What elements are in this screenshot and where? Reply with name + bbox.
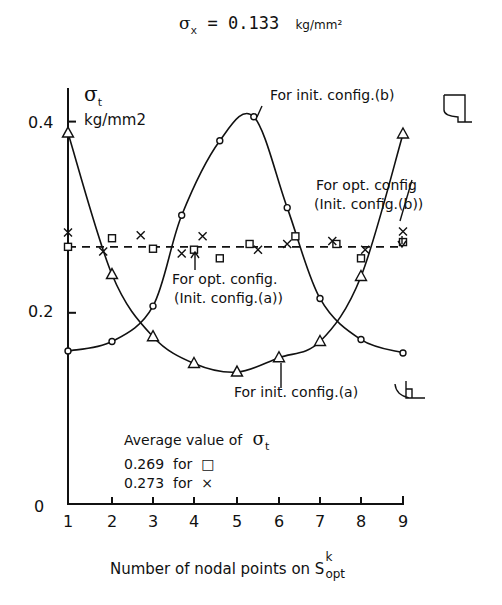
y-tick-02: 0.2 (28, 302, 53, 321)
marker-circle (284, 205, 290, 211)
y-axis-label: σt (84, 82, 102, 106)
x-axis-label-text: Number of nodal points on S (110, 560, 324, 578)
marker-square (150, 245, 157, 252)
leader-opt-a (191, 252, 199, 270)
marker-triangle (107, 269, 118, 279)
marker-circle (317, 295, 323, 301)
marker-square (65, 243, 72, 250)
marker-circle (150, 303, 156, 309)
annotation-opt-b-line2: (Init. config.(b)) (314, 196, 423, 212)
annotation-init-b: For init. config.(b) (270, 87, 394, 103)
x-tick-label: 8 (356, 512, 366, 531)
title-value: = 0.133 (207, 13, 279, 33)
marker-square (191, 246, 198, 253)
x-tick-label: 2 (107, 512, 117, 531)
average-sigma: σ (253, 428, 265, 449)
shape-b-icon (444, 95, 472, 122)
shape-a-icon (395, 381, 425, 398)
annotation-opt-a-line1: For opt. config. (172, 271, 277, 287)
marker-square (292, 233, 299, 240)
marker-circle (358, 337, 364, 343)
average-cross: 0.273 for × (124, 475, 213, 491)
average-title-text: Average value of (124, 432, 242, 448)
x-axis-label-sup: k (325, 550, 332, 564)
marker-circle (251, 114, 257, 120)
y-axis-unit: kg/mm2 (84, 111, 146, 129)
series-line (68, 133, 403, 372)
marker-circle (179, 212, 185, 218)
chart-title: σx = 0.133 kg/mm² (179, 13, 342, 33)
marker-square (216, 255, 223, 262)
annotation-leaders (191, 95, 472, 398)
marker-cross (283, 240, 291, 248)
series-line (68, 113, 403, 353)
marker-circle (65, 348, 71, 354)
y-sub: t (98, 96, 102, 109)
x-tick-label: 1 (63, 512, 73, 531)
average-square: 0.269 for □ (124, 456, 214, 472)
x-tick-label: 3 (148, 512, 158, 531)
marker-circle (400, 350, 406, 356)
y-sigma: σ (84, 82, 98, 106)
x-tick-label: 9 (398, 512, 408, 531)
annotation-opt-a-line2: (Init. config.(a)) (174, 290, 283, 306)
x-tick-label: 7 (315, 512, 325, 531)
leader-b (257, 106, 262, 117)
marker-square (109, 235, 116, 242)
y-tick-0: 0 (34, 497, 44, 516)
marker-cross (137, 231, 145, 239)
marker-triangle (63, 127, 74, 137)
marker-cross (399, 228, 407, 236)
marker-square (333, 240, 340, 247)
marker-triangle (356, 270, 367, 280)
x-tick-label: 4 (189, 512, 199, 531)
marker-cross (178, 250, 186, 258)
marker-cross (199, 232, 207, 240)
y-tick-04: 0.4 (28, 113, 53, 132)
annotation-init-a: For init. config.(a) (234, 384, 358, 400)
title-sigma: σ (179, 13, 191, 33)
marker-triangle (398, 128, 409, 138)
average-sub: t (265, 440, 269, 453)
marker-square (246, 240, 253, 247)
curves (68, 113, 403, 372)
x-axis-label-sub: opt (325, 567, 345, 581)
average-title: Average value of σt (124, 428, 269, 449)
marker-circle (217, 138, 223, 144)
x-axis-label: Number of nodal points on S k opt (110, 560, 346, 578)
title-sub: x (191, 24, 198, 37)
x-tick-label: 6 (274, 512, 284, 531)
title-unit: kg/mm² (295, 18, 342, 32)
marker-square (358, 255, 365, 262)
annotation-opt-b-line1: For opt. config (316, 177, 417, 193)
x-tick-label: 5 (232, 512, 242, 531)
marker-circle (109, 338, 115, 344)
